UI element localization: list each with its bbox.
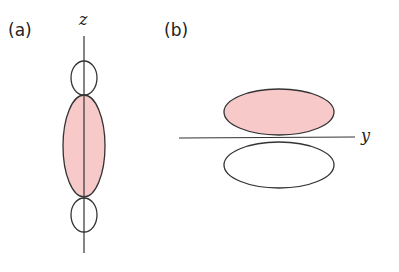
upper-shaded-lobe xyxy=(224,89,334,135)
lower-unshaded-lobe xyxy=(224,142,334,188)
orbital-diagram xyxy=(0,0,399,272)
y-axis-line xyxy=(179,137,355,138)
panel-a xyxy=(63,36,105,253)
panel-b xyxy=(179,89,355,188)
